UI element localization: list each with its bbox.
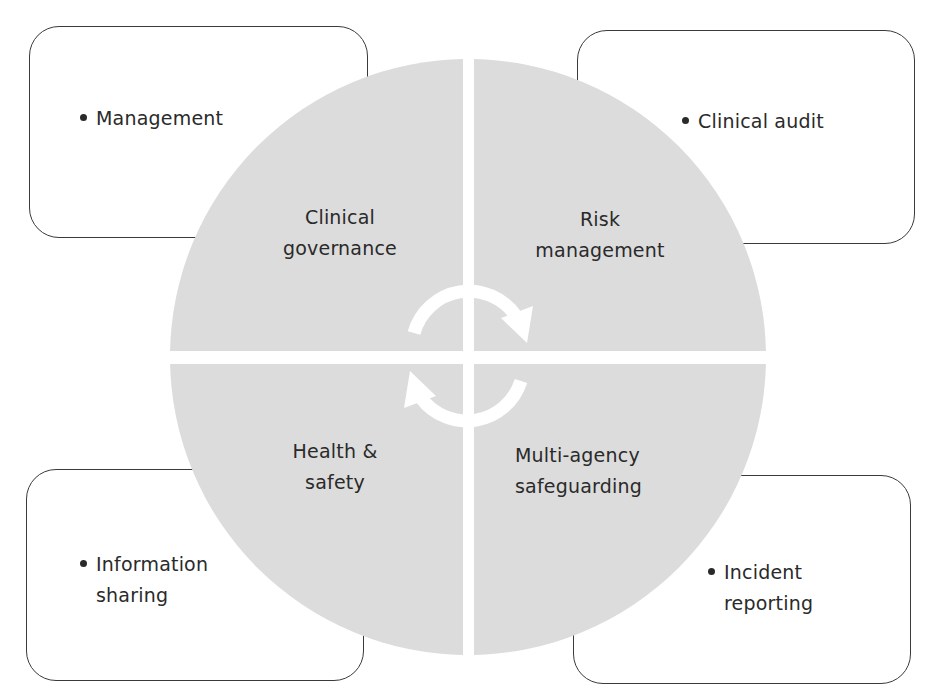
- box-item: Information: [96, 553, 208, 575]
- label-line: Health &: [265, 436, 405, 467]
- bullet-icon: [708, 568, 715, 575]
- box-item: Management: [96, 107, 223, 129]
- box-text-bottom-left: Information sharing: [80, 549, 208, 611]
- box-item: Incident: [724, 561, 802, 583]
- label-line: safeguarding: [515, 471, 685, 502]
- bullet-icon: [80, 560, 87, 567]
- quadrant-label-top-right: Risk management: [520, 204, 680, 266]
- box-text-bottom-right: Incident reporting: [708, 557, 813, 619]
- box-text-top-left: Management: [80, 103, 223, 134]
- bullet-icon: [80, 114, 87, 121]
- box-item-continued: sharing: [80, 580, 208, 611]
- quadrant-label-bottom-left: Health & safety: [265, 436, 405, 498]
- box-item: Clinical audit: [698, 110, 824, 132]
- box-text-top-right: Clinical audit: [682, 106, 824, 137]
- cycle-arrows-icon: [414, 291, 521, 421]
- quadrant-label-bottom-right: Multi-agency safeguarding: [515, 440, 685, 502]
- bullet-icon: [682, 117, 689, 124]
- label-line: Multi-agency: [515, 440, 685, 471]
- quadrant-label-top-left: Clinical governance: [265, 202, 415, 264]
- label-line: safety: [265, 467, 405, 498]
- label-line: Risk: [520, 204, 680, 235]
- label-line: governance: [265, 233, 415, 264]
- label-line: management: [520, 235, 680, 266]
- box-item-continued: reporting: [708, 588, 813, 619]
- label-line: Clinical: [265, 202, 415, 233]
